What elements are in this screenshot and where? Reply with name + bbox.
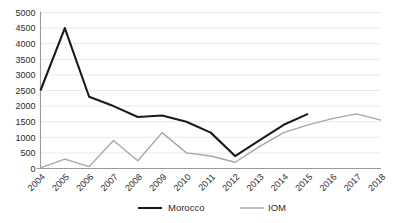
legend-label-iom: IOM [268, 202, 286, 213]
y-axis-tick-label: 4500 [15, 23, 35, 33]
y-axis-tick-label: 1500 [15, 117, 35, 127]
x-axis-tick-label: 2015 [293, 172, 314, 193]
y-axis-tick-label: 3000 [15, 70, 35, 80]
series-lines [41, 28, 382, 168]
x-axis-tick-label: 2016 [318, 172, 339, 193]
x-axis-tick-label: 2012 [220, 172, 241, 193]
x-axis-tick-label: 2013 [245, 172, 266, 193]
series-line-morocco [41, 28, 309, 156]
y-axis-tick-label: 2500 [15, 86, 35, 96]
y-axis-tick-label: 1000 [15, 133, 35, 143]
y-axis-tick-label: 3500 [15, 55, 35, 65]
y-axis-tick-label: 2000 [15, 101, 35, 111]
y-axis-tick-label: 0 [30, 164, 35, 174]
x-axis-tick-label: 2005 [50, 172, 71, 193]
x-axis-tick-label: 2007 [99, 172, 120, 193]
chart-legend: MoroccoIOM [138, 202, 286, 213]
y-axis-tick-label: 5000 [15, 8, 35, 18]
x-axis-tick-label: 2009 [147, 172, 168, 193]
x-axis-tick-label: 2010 [172, 172, 193, 193]
legend-label-morocco: Morocco [168, 202, 204, 213]
y-axis-tick-label: 4000 [15, 39, 35, 49]
x-axis-tick-label: 2006 [74, 172, 95, 193]
line-chart: 0500100015002000250030003500400045005000… [0, 0, 395, 223]
x-axis-tick-label: 2004 [26, 172, 47, 193]
x-axis-tick-label: 2011 [196, 172, 217, 193]
x-axis-tick-label: 2014 [269, 172, 290, 193]
y-axis-tick-label: 500 [20, 148, 35, 158]
y-axis-tick-labels: 0500100015002000250030003500400045005000 [15, 8, 35, 174]
x-axis-tick-labels: 2004200520062007200820092010201120122013… [26, 172, 388, 193]
x-axis-tick-label: 2017 [342, 172, 363, 193]
x-axis-tick-label: 2008 [123, 172, 144, 193]
x-axis-tick-label: 2018 [366, 172, 387, 193]
